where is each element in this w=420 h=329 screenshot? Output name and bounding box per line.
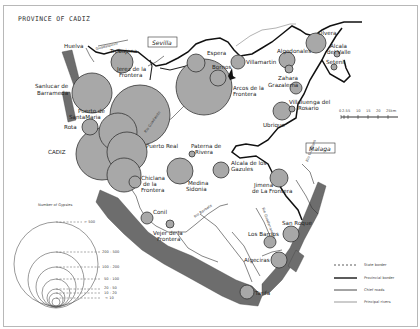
circle-tarifa — [240, 285, 254, 299]
label-zahara: Zahara — [278, 75, 298, 81]
svg-text:Sevilla: Sevilla — [152, 39, 172, 46]
label-puerto-sm-2: SantaMaria — [69, 114, 101, 120]
range-gt-500: > 500 — [84, 220, 96, 224]
label-paterna-2: Rivera — [195, 149, 213, 155]
svg-text:10: 10 — [356, 109, 361, 113]
label-algeciras: Algeciras — [244, 257, 270, 264]
label-medina-2: Sidonia — [186, 186, 207, 192]
label-jimena-2: de La Frontera — [252, 188, 292, 194]
svg-text:5: 5 — [348, 109, 350, 113]
legend-state-border: State border — [364, 263, 387, 267]
label-rota: Rota — [64, 124, 77, 130]
label-cadiz: CADIZ — [48, 149, 66, 155]
label-arcos-2: Frontera — [233, 91, 256, 97]
circle-conil — [141, 212, 153, 224]
cadiz-map: PROVINCE OF CADIZ — [0, 0, 420, 329]
label-conil: Conil — [153, 209, 167, 215]
label-sanlucar-1: Sanlucar de — [35, 83, 69, 89]
circle-espera — [187, 54, 205, 72]
circle-villamartin — [231, 55, 245, 69]
label-olvera: Olvera — [318, 30, 336, 36]
map-title: PROVINCE OF CADIZ — [18, 15, 90, 23]
circle-rota — [82, 119, 98, 135]
circle-villaluenga — [289, 106, 295, 112]
gypsies-legend-title: Number of Gypsies — [38, 203, 72, 207]
label-san-roque: San Roque — [282, 220, 312, 227]
neighbor-huelva: Huelva — [64, 43, 84, 49]
circle-vejer — [166, 220, 174, 228]
label-chiclana-3: Frontera — [141, 187, 164, 193]
range-20-50: 20 - 50 — [104, 286, 117, 290]
label-grazalema: Grazalema — [268, 82, 298, 88]
range-10-20: 10 - 20 — [104, 291, 117, 295]
gypsies-legend: Number of Gypsies > 500 200 - 500 100 - … — [14, 203, 120, 308]
neighbor-sevilla: Sevilla — [148, 37, 177, 47]
label-villaluenga-2: Rosario — [298, 105, 319, 111]
circle-chiclana — [129, 176, 141, 188]
scale-bar: 0 2.5 5 10 15 20 25km — [339, 109, 398, 119]
legend-provincial-border: Provincial border — [364, 276, 395, 280]
circle-bornos — [210, 70, 226, 86]
label-villamartin: Villamartin — [246, 59, 277, 65]
range-lt-10: < 10 — [105, 296, 114, 300]
svg-text:25km: 25km — [386, 109, 397, 113]
label-sanlucar-2: Barrameda — [37, 90, 68, 96]
svg-text:20: 20 — [376, 109, 381, 113]
label-trebujena: Trebujena — [109, 48, 137, 55]
range-200-500: 200 - 500 — [102, 250, 120, 254]
label-espera: Espera — [207, 50, 226, 57]
svg-text:2.5: 2.5 — [342, 109, 348, 113]
label-setenil: Setenil — [326, 59, 346, 65]
circle-zahara — [285, 65, 293, 73]
svg-text:15: 15 — [366, 109, 371, 113]
label-tarifa: Tarifa — [254, 290, 270, 296]
range-100-200: 100 - 200 — [102, 265, 120, 269]
label-algodonales: Algodonales — [277, 48, 311, 55]
circle-alcala-gazules — [213, 162, 229, 178]
legend-principal-rivers: Principal rivers — [364, 300, 391, 304]
label-ubrique: Ubrique — [263, 122, 286, 129]
circle-san-roque — [283, 226, 299, 242]
label-los-barrios: Los Barrios — [248, 231, 279, 237]
line-legend: State border Provincial border Chief roa… — [334, 263, 395, 304]
label-vejer-2: Frontera — [157, 236, 180, 242]
circle-sanlucar — [72, 73, 112, 113]
circle-algeciras — [271, 252, 287, 268]
label-jerez-2: Frontera — [119, 72, 142, 78]
legend-chief-roads: Chief roads — [364, 288, 384, 292]
range-50-100: 50 - 100 — [104, 277, 120, 281]
label-alcala-valle-2: del Valle — [327, 49, 351, 55]
label-bornos: Bornos — [212, 64, 231, 70]
label-puerto-real: Puerto Real — [146, 143, 178, 149]
label-alcala-gazules-2: Gazules — [231, 166, 253, 172]
